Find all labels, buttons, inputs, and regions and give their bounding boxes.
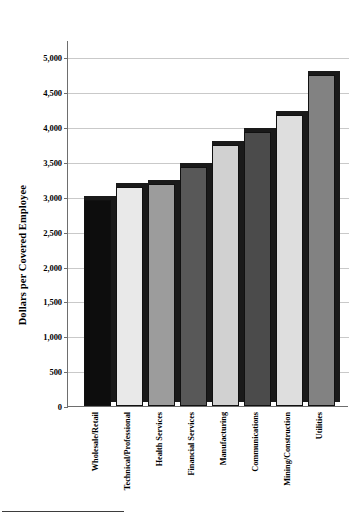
x-axis-category-label-text: Communications	[252, 412, 260, 472]
y-axis-tick-label: 0	[58, 403, 62, 412]
y-axis-tick-label: 1,000	[43, 333, 62, 342]
x-axis-category-label-text: Utilities	[316, 412, 324, 439]
y-axis-tick-mark	[64, 58, 68, 59]
y-axis-tick-mark	[64, 93, 68, 94]
y-axis-tick-mark	[64, 128, 68, 129]
gridline	[68, 58, 349, 59]
bar	[84, 200, 111, 406]
x-axis-category-label: Health Services	[154, 412, 168, 512]
x-axis-category-label: Technical/Professional	[122, 412, 136, 512]
y-axis-tick-mark	[64, 268, 68, 269]
y-axis-tick-mark	[64, 233, 68, 234]
bar	[148, 184, 175, 406]
y-axis-tick-label: 500	[50, 368, 62, 377]
x-axis-category-label-text: Wholesale/Retail	[92, 412, 100, 471]
bar	[212, 145, 239, 406]
bar	[116, 187, 143, 406]
bar	[276, 115, 303, 406]
y-axis-tick-mark	[64, 337, 68, 338]
x-axis-category-label: Wholesale/Retail	[90, 412, 104, 512]
y-axis-title-text: Dollars per Covered Employee	[18, 185, 29, 325]
y-axis-tick-label: 2,000	[43, 263, 62, 272]
bar-front-face	[244, 132, 271, 406]
y-axis-tick-mark	[64, 163, 68, 164]
x-axis-category-label-text: Financial Services	[188, 412, 196, 475]
bar-front-face	[116, 187, 143, 406]
y-axis-tick-label: 2,500	[43, 228, 62, 237]
x-axis-category-label: Manufacturing	[218, 412, 232, 512]
y-axis-tick-label: 3,000	[43, 194, 62, 203]
bar-front-face	[308, 75, 335, 406]
gridline	[68, 93, 349, 94]
y-axis-tick-label: 1,500	[43, 298, 62, 307]
x-axis-category-label-text: Health Services	[156, 412, 164, 466]
bar-side-face	[335, 71, 340, 402]
footer-divider	[2, 511, 124, 512]
y-axis-tick-mark	[64, 198, 68, 199]
x-axis-category-label: Communications	[250, 412, 264, 512]
y-axis-tick-label: 5,000	[43, 54, 62, 63]
x-axis-category-label-text: Mining/Construction	[284, 412, 292, 486]
y-axis-tick-label: 4,500	[43, 89, 62, 98]
bar-front-face	[212, 145, 239, 406]
y-axis-title: Dollars per Covered Employee	[14, 150, 32, 360]
y-axis-tick-mark	[64, 302, 68, 303]
y-axis-tick-mark	[64, 372, 68, 373]
plot-area: 05001,0001,5002,0002,5003,0003,5004,0004…	[67, 41, 348, 407]
y-axis-tick-label: 3,500	[43, 159, 62, 168]
bar	[244, 132, 271, 406]
x-axis-category-label: Financial Services	[186, 412, 200, 512]
y-axis-tick-mark	[64, 407, 68, 408]
bar-front-face	[148, 184, 175, 406]
x-axis-category-label-text: Technical/Professional	[124, 412, 132, 490]
bar	[308, 75, 335, 406]
x-axis-category-label: Mining/Construction	[282, 412, 296, 512]
x-axis-category-label-text: Manufacturing	[220, 412, 228, 465]
bar-front-face	[180, 167, 207, 406]
y-axis-tick-label: 4,000	[43, 124, 62, 133]
bar-front-face	[84, 200, 111, 406]
bar	[180, 167, 207, 406]
bar-front-face	[276, 115, 303, 406]
bar-chart-figure: Dollars per Covered Employee 05001,0001,…	[0, 0, 359, 523]
x-axis-category-label: Utilities	[314, 412, 328, 512]
